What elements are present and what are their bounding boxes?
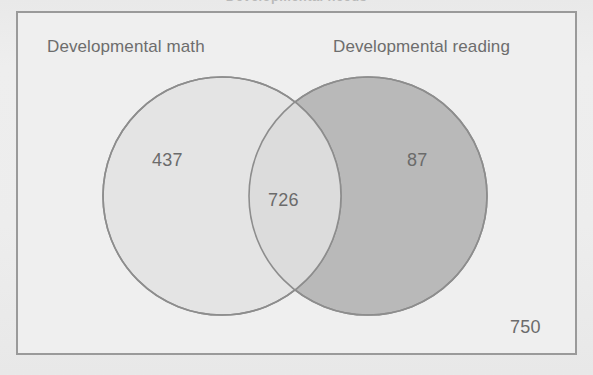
count-intersection: 726 — [268, 190, 299, 211]
count-left-only: 437 — [152, 150, 183, 171]
count-outside-sets: 750 — [510, 317, 541, 338]
set-label-right: Developmental reading — [333, 37, 510, 57]
set-label-left: Developmental math — [47, 37, 205, 57]
count-right-only: 87 — [407, 150, 427, 171]
